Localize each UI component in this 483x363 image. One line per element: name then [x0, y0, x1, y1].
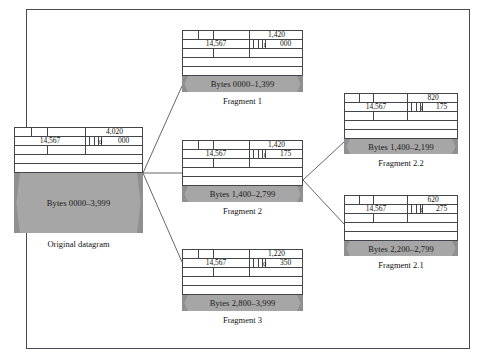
more-fragments-flag: 0 [99, 138, 102, 145]
payload-band: Bytes 2,200–2,799 [344, 241, 458, 256]
header-row-5 [345, 130, 457, 139]
header-row-4 [345, 223, 457, 232]
total-length-value: 1,220 [249, 250, 304, 258]
datagram-caption: Fragment 2.2 [344, 158, 458, 168]
fragment-offset-value: 000 [267, 40, 304, 48]
header-row-2: 14,567 1 275 [345, 205, 457, 214]
header-row-2: 14,567 0 000 [15, 137, 142, 146]
payload-band: Bytes 0000–3,999 [14, 173, 143, 233]
identification-value: 14,567 [345, 205, 407, 213]
payload-label: Bytes 1,400–2,799 [210, 189, 276, 199]
datagram-original: 4,020 14,567 0 000 Bytes 0000–3,999 [14, 127, 143, 233]
flags-field: 1 [253, 150, 266, 158]
flags-field: 1 [411, 205, 423, 213]
more-fragments-flag: 1 [263, 41, 266, 48]
total-length-value: 620 [407, 196, 459, 204]
identification-value: 14,567 [183, 150, 249, 158]
ip-header: 1,420 14,567 1 175 [182, 140, 303, 186]
header-row-5 [183, 286, 302, 295]
header-row-3 [183, 268, 302, 277]
payload-label: Bytes 0000–1,399 [211, 79, 274, 89]
fragment-offset-value: 175 [267, 150, 304, 158]
flags-field: 0 [89, 137, 102, 145]
header-row-4 [183, 58, 302, 67]
figure-canvas: 4,020 14,567 0 000 Bytes 0000–3,999 [0, 0, 483, 363]
header-row-2: 14,567 0 350 [183, 259, 302, 268]
total-length-value: 820 [407, 94, 459, 102]
ip-header: 820 14,567 1 175 [344, 93, 458, 139]
datagram-fragment-2-2: 820 14,567 1 175 Bytes 1,400–2,199 [344, 93, 458, 154]
header-row-4 [183, 168, 302, 177]
header-row-4 [183, 277, 302, 286]
fragment-offset-value: 350 [267, 259, 304, 267]
identification-value: 14,567 [183, 40, 249, 48]
more-fragments-flag: 0 [263, 260, 266, 267]
more-fragments-flag: 1 [263, 151, 266, 158]
datagram-caption: Fragment 2 [182, 206, 303, 216]
identification-value: 14,567 [15, 137, 85, 145]
fragment-offset-value: 275 [424, 205, 459, 213]
header-row-2: 14,567 1 175 [183, 150, 302, 159]
header-row-2: 14,567 1 175 [345, 103, 457, 112]
header-row-3 [345, 214, 457, 223]
clipped-caption-text [0, 0, 483, 9]
datagram-fragment-1: 1,420 14,567 1 000 Bytes 0000–1,399 [182, 30, 303, 92]
datagram-fragment-2-1: 620 14,567 1 275 Bytes 2,200–2,799 [344, 195, 458, 256]
flags-field: 1 [411, 103, 423, 111]
datagram-caption: Fragment 3 [182, 315, 303, 325]
payload-label: Bytes 1,400–2,199 [368, 142, 434, 152]
total-length-value: 4,020 [85, 128, 144, 136]
header-row-5 [183, 177, 302, 186]
ip-header: 1,220 14,567 0 350 [182, 249, 303, 295]
header-row-3 [183, 49, 302, 58]
datagram-caption: Fragment 2.1 [344, 260, 458, 270]
total-length-value: 1,420 [249, 31, 304, 39]
header-row-5 [345, 232, 457, 241]
header-row-5 [15, 164, 142, 173]
payload-band: Bytes 1,400–2,799 [182, 186, 303, 202]
header-row-5 [183, 67, 302, 76]
header-row-4 [345, 121, 457, 130]
flags-field: 0 [253, 259, 266, 267]
more-fragments-flag: 1 [420, 206, 423, 213]
payload-band: Bytes 0000–1,399 [182, 76, 303, 92]
total-length-value: 1,420 [249, 141, 304, 149]
header-row-4 [15, 155, 142, 164]
identification-value: 14,567 [345, 103, 407, 111]
payload-label: Bytes 2,800–3,999 [210, 298, 276, 308]
payload-band: Bytes 2,800–3,999 [182, 295, 303, 311]
fragment-offset-value: 000 [103, 137, 144, 145]
ip-header: 620 14,567 1 275 [344, 195, 458, 241]
fragment-offset-value: 175 [424, 103, 459, 111]
header-row-3 [345, 112, 457, 121]
header-row-3 [15, 146, 142, 155]
payload-label: Bytes 0000–3,999 [47, 198, 110, 208]
ip-header: 4,020 14,567 0 000 [14, 127, 143, 173]
header-row-3 [183, 159, 302, 168]
flags-field: 1 [253, 40, 266, 48]
datagram-fragment-3: 1,220 14,567 0 350 Bytes 2,800–3,999 [182, 249, 303, 311]
identification-value: 14,567 [183, 259, 249, 267]
datagram-caption: Original datagram [14, 239, 143, 249]
payload-label: Bytes 2,200–2,799 [368, 244, 434, 254]
ip-header: 1,420 14,567 1 000 [182, 30, 303, 76]
header-row-2: 14,567 1 000 [183, 40, 302, 49]
datagram-fragment-2: 1,420 14,567 1 175 Bytes 1,400–2,799 [182, 140, 303, 202]
more-fragments-flag: 1 [420, 104, 423, 111]
datagram-caption: Fragment 1 [182, 96, 303, 106]
payload-band: Bytes 1,400–2,199 [344, 139, 458, 154]
